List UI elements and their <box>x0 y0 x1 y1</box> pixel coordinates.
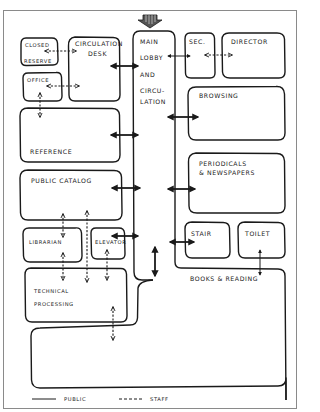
browsing-label: BROWSING <box>199 93 239 99</box>
technical-processing-label: TECHNICAL <box>34 289 69 294</box>
director-label: DIRECTOR <box>231 39 268 45</box>
stair-label: STAIR <box>191 231 212 237</box>
main-lobby-label-3: AND <box>140 72 155 78</box>
closed-reserve-label: CLOSED <box>25 43 50 48</box>
circulation-desk-label-2: DESK <box>88 51 107 57</box>
reference-label: REFERENCE <box>30 149 72 155</box>
room-stair <box>185 222 230 258</box>
toilet-label: TOILET <box>245 231 270 237</box>
circulation-desk-label: CIRCULATION <box>75 41 123 47</box>
main-lobby-label-4: CIRCU- <box>140 88 165 94</box>
elevator-label: ELEVATOR <box>95 240 126 245</box>
room-technical-processing <box>25 268 127 322</box>
public-catalog-label: PUBLIC CATALOG <box>31 178 92 184</box>
office-label: OFFICE <box>27 78 49 83</box>
entrance-arrow-icon <box>138 15 162 28</box>
room-books-reading <box>31 280 286 400</box>
librarian-label: LIBRARIAN <box>29 240 62 245</box>
technical-processing-label-2: PROCESSING <box>34 302 74 307</box>
room-main-lobby <box>133 31 153 280</box>
main-lobby-label-2: LOBBY <box>140 55 163 61</box>
main-lobby-label-5: LATION <box>140 99 166 105</box>
legend-staff-label: STAFF <box>150 397 169 402</box>
room-toilet <box>238 222 285 258</box>
periodicals-label: PERIODICALS <box>199 161 247 167</box>
periodicals-label-2: & NEWSPAPERS <box>199 170 255 176</box>
legend-public-label: PUBLIC <box>64 397 86 402</box>
books-reading-label: BOOKS & READING <box>190 276 258 282</box>
sec-label: SEC. <box>189 39 206 45</box>
closed-reserve-label-2: RESERVE <box>24 59 52 64</box>
main-lobby-label: MAIN <box>140 39 158 45</box>
